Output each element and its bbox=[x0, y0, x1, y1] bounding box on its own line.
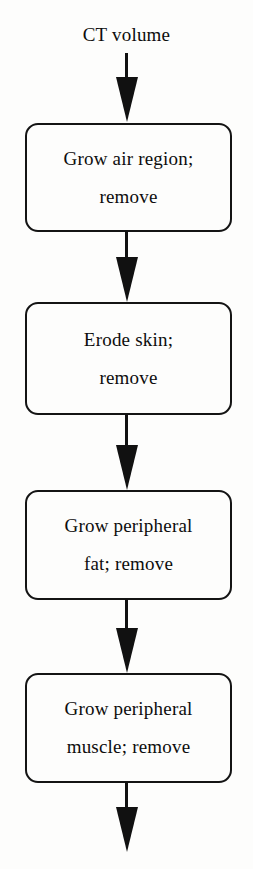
flowchart-diagram: CT volume Grow air region; remove Erode … bbox=[0, 0, 253, 869]
arrow-head-icon bbox=[116, 77, 138, 122]
process-box-grow-air-region[interactable]: Grow air region; remove bbox=[25, 123, 232, 232]
arrow-shaft-icon bbox=[125, 231, 128, 259]
arrow-shaft-icon bbox=[125, 782, 128, 808]
process-box-grow-peripheral-muscle[interactable]: Grow peripheral muscle; remove bbox=[25, 673, 232, 783]
input-label-ct-volume: CT volume bbox=[0, 24, 253, 46]
process-box-line-2: remove bbox=[27, 178, 230, 216]
process-box-line-1: Grow peripheral bbox=[27, 690, 230, 728]
arrow-head-icon bbox=[116, 257, 138, 302]
process-box-line-2: fat; remove bbox=[27, 545, 230, 583]
process-box-line-1: Erode skin; bbox=[27, 321, 230, 359]
arrow-shaft-icon bbox=[125, 599, 128, 630]
arrow-step4-to-output bbox=[0, 782, 253, 852]
arrow-shaft-icon bbox=[125, 414, 128, 447]
arrow-step1-to-step2 bbox=[0, 231, 253, 302]
arrow-head-icon bbox=[116, 807, 138, 852]
process-box-line-1: Grow air region; bbox=[27, 140, 230, 178]
process-box-line-2: muscle; remove bbox=[27, 728, 230, 766]
arrow-step2-to-step3 bbox=[0, 414, 253, 490]
arrow-head-icon bbox=[116, 628, 138, 673]
arrow-head-icon bbox=[116, 445, 138, 490]
process-box-line-1: Grow peripheral bbox=[27, 507, 230, 545]
process-box-grow-peripheral-fat[interactable]: Grow peripheral fat; remove bbox=[25, 490, 232, 600]
process-box-erode-skin[interactable]: Erode skin; remove bbox=[25, 302, 232, 415]
arrow-step3-to-step4 bbox=[0, 599, 253, 673]
arrow-shaft-icon bbox=[125, 53, 128, 79]
arrow-input-to-step1 bbox=[0, 53, 253, 122]
process-box-line-2: remove bbox=[27, 359, 230, 397]
